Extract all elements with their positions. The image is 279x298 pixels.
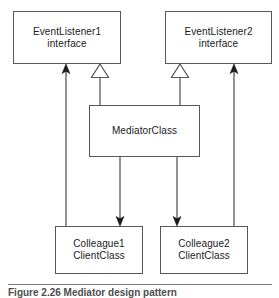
edge-generalization-mediator-to-listener2 [172,64,189,105]
class-box-event-listener-2[interactable]: EventListener2 interface [165,11,272,64]
class-box-label: EventListener1 interface [33,26,101,50]
figure-caption: Figure 2.26 Mediator design pattern [8,287,272,298]
class-box-label: Colleague2 ClientClass [178,238,230,262]
hollow-triangle-arrowhead-icon [92,64,109,78]
edge-association-colleague2-to-listener2 [230,64,238,226]
class-box-label: EventListener2 interface [184,26,252,50]
edge-generalization-mediator-to-listener1 [92,64,109,105]
class-box-colleague-2[interactable]: Colleague2 ClientClass [160,226,248,274]
class-box-event-listener-1[interactable]: EventListener1 interface [13,11,121,64]
class-box-label: MediatorClass [112,125,177,137]
edge-association-mediator-to-colleague1 [116,157,124,226]
class-box-label: Colleague1 ClientClass [73,238,125,262]
class-box-mediator-class[interactable]: MediatorClass [89,105,200,157]
class-box-colleague-1[interactable]: Colleague1 ClientClass [55,226,143,274]
caption-divider [8,284,272,285]
edge-association-mediator-to-colleague2 [173,157,181,226]
edge-association-colleague1-to-listener1 [62,64,70,226]
hollow-triangle-arrowhead-icon [172,64,189,78]
